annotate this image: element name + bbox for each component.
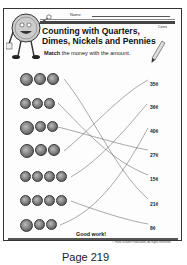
coin-row <box>20 171 67 182</box>
coin-icon <box>44 195 55 206</box>
coin-row <box>20 219 57 232</box>
coin-row <box>20 73 59 86</box>
coin-icon <box>34 219 45 230</box>
header-rule-thin <box>40 19 175 20</box>
good-work-text: Good work! <box>76 231 106 237</box>
name-label: Name <box>70 12 81 17</box>
coin-icon <box>48 144 60 156</box>
coin-icon <box>56 195 67 206</box>
coin-row <box>20 98 55 109</box>
copyright-text: © Frank Schaffer Publications, All Right… <box>112 241 170 244</box>
coin-icon <box>32 98 43 109</box>
coin-row <box>20 195 67 206</box>
amount-label: 36¢ <box>150 104 158 110</box>
coin-row <box>20 144 60 158</box>
coin-icon <box>44 98 55 109</box>
coin-icon <box>20 73 33 86</box>
amount-label: 35¢ <box>150 81 158 87</box>
footer-rule <box>8 238 178 240</box>
coin-icon <box>32 171 43 182</box>
coin-icon <box>34 73 46 85</box>
amount-label: 21¢ <box>150 201 158 207</box>
coin-icon <box>20 98 31 109</box>
amount-label: 15¢ <box>150 176 158 182</box>
amount-label: 40¢ <box>150 128 158 134</box>
name-field-line <box>92 16 170 17</box>
coin-icon <box>35 121 46 132</box>
coin-icon <box>32 195 43 206</box>
coin-icon <box>56 171 67 182</box>
coin-icon <box>44 171 55 182</box>
instruction-text: the money with the amount. <box>60 50 130 56</box>
pencil-icon <box>150 40 166 64</box>
amount-label: 27¢ <box>150 152 158 158</box>
topic-tag: Coins <box>158 25 167 29</box>
coin-icon <box>20 171 31 182</box>
instruction-bold: Match <box>44 50 60 56</box>
amount-label: 8¢ <box>150 225 156 231</box>
coin-icon <box>35 144 47 156</box>
coin-icon <box>47 121 58 132</box>
title-line-2: Dimes, Nickels and Pennies <box>42 37 156 47</box>
coin-icon <box>47 73 59 85</box>
coin-icon <box>20 144 34 158</box>
instructions: Match the money with the amount. <box>44 50 130 56</box>
header-rule <box>40 21 175 24</box>
coin-icon <box>46 219 57 230</box>
coin-icon <box>20 195 31 206</box>
coin-icon <box>20 219 33 232</box>
worksheet-title: Counting with Quarters, Dimes, Nickels a… <box>42 27 156 46</box>
coin-icon <box>20 121 34 135</box>
page-label: Page 219 <box>62 251 109 263</box>
coin-row <box>20 121 58 135</box>
